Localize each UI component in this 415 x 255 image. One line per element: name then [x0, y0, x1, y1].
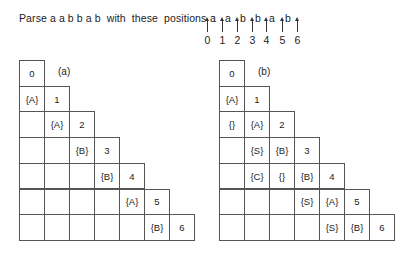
chart-cell	[69, 189, 95, 216]
position-arrow-icon	[237, 20, 238, 32]
chart-diagonal-cell: 0	[219, 60, 245, 87]
chart-cell	[294, 214, 320, 241]
chart-cell	[219, 189, 245, 216]
input-symbol: b	[240, 12, 246, 24]
chart-label: (b)	[258, 66, 270, 77]
chart-diagonal-cell: 3	[94, 137, 120, 164]
position-number: 0	[202, 34, 214, 46]
chart-cell	[94, 214, 120, 241]
input-symbol: a	[225, 12, 231, 24]
chart-cell	[44, 189, 70, 216]
position-number: 2	[232, 34, 244, 46]
chart-cell	[44, 137, 70, 164]
chart-cell: {B}	[344, 214, 370, 241]
chart-cell	[269, 214, 295, 241]
chart-diagonal-cell: 4	[319, 163, 345, 190]
position-arrow-icon	[266, 20, 267, 32]
position-number: 1	[217, 34, 229, 46]
chart-cell	[69, 163, 95, 190]
chart-cell	[19, 137, 45, 164]
chart-cell: {S}	[294, 189, 320, 216]
chart-diagonal-cell: 2	[269, 111, 295, 138]
chart-diagonal-cell: 1	[244, 86, 270, 113]
chart-cell: {A}	[44, 111, 70, 138]
chart-label: (a)	[58, 66, 70, 77]
chart-cell: {A}	[319, 189, 345, 216]
chart-cell: {B}	[94, 163, 120, 190]
position-number: 6	[292, 34, 304, 46]
chart-cell: {A}	[244, 111, 270, 138]
chart-diagonal-cell: 1	[44, 86, 70, 113]
input-symbol: b	[255, 12, 261, 24]
input-symbol: b	[285, 12, 291, 24]
chart-diagonal-cell: 5	[144, 189, 170, 216]
chart-diagonal-cell: 0	[19, 60, 45, 87]
chart-cell	[44, 214, 70, 241]
chart-diagonal-cell: 5	[344, 189, 370, 216]
chart-cell: {A}	[119, 189, 145, 216]
position-arrow-icon	[207, 20, 208, 32]
chart-diagonal-cell: 4	[119, 163, 145, 190]
chart-cell: {A}	[19, 86, 45, 113]
chart-cell: {}	[269, 163, 295, 190]
position-number: 4	[261, 34, 273, 46]
position-arrow-icon	[297, 20, 298, 32]
input-symbol: a	[210, 12, 216, 24]
chart-diagonal-cell: 6	[369, 214, 395, 241]
chart-cell	[219, 163, 245, 190]
chart-cell: {B}	[269, 137, 295, 164]
chart-cell	[19, 214, 45, 241]
chart-cell	[94, 189, 120, 216]
chart-cell	[19, 111, 45, 138]
chart-diagonal-cell: 2	[69, 111, 95, 138]
chart-cell	[19, 163, 45, 190]
position-number: 5	[277, 34, 289, 46]
chart-cell: {S}	[319, 214, 345, 241]
input-symbol: a	[269, 12, 275, 24]
chart-cell	[19, 189, 45, 216]
chart-cell: {S}	[244, 137, 270, 164]
position-strip: 0123456aabbab	[0, 0, 415, 50]
chart-cell: {B}	[144, 214, 170, 241]
chart-cell: {}	[219, 111, 245, 138]
chart-cell	[269, 189, 295, 216]
chart-cell	[244, 214, 270, 241]
chart-cell: {B}	[69, 137, 95, 164]
position-number: 3	[247, 34, 259, 46]
position-arrow-icon	[222, 20, 223, 32]
position-arrow-icon	[252, 20, 253, 32]
chart-cell	[69, 214, 95, 241]
chart-cell: {C}	[244, 163, 270, 190]
chart-cell: {B}	[294, 163, 320, 190]
chart-cell	[119, 214, 145, 241]
chart-cell	[44, 163, 70, 190]
chart-cell	[244, 189, 270, 216]
chart-cell: {A}	[219, 86, 245, 113]
chart-cell	[219, 137, 245, 164]
chart-diagonal-cell: 6	[169, 214, 195, 241]
position-arrow-icon	[282, 20, 283, 32]
chart-diagonal-cell: 3	[294, 137, 320, 164]
chart-cell	[219, 214, 245, 241]
